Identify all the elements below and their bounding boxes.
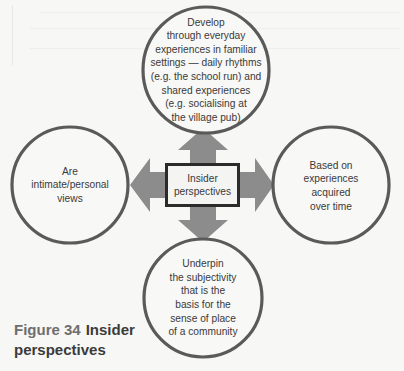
- node-top-line: shared experiences: [151, 84, 262, 98]
- node-right-line: acquired: [304, 186, 359, 200]
- node-top-line: settings — daily rhythms: [151, 56, 262, 70]
- node-right-line: over time: [304, 200, 359, 214]
- node-top: Develop through everyday experiences in …: [146, 12, 266, 128]
- node-top-line: through everyday: [151, 29, 262, 43]
- node-bottom-line: basis for the: [168, 298, 237, 312]
- node-top-line: the village pub): [151, 111, 262, 125]
- figure-title-line2: perspectives: [14, 340, 135, 360]
- arrow-right-icon: [240, 158, 274, 212]
- node-top-line: experiences in familiar: [151, 43, 262, 57]
- node-right-line: experiences: [304, 172, 359, 186]
- node-right: Based on experiences acquired over time: [276, 130, 386, 242]
- center-label: Insider perspectives: [173, 172, 233, 198]
- node-left-line: intimate/personal: [31, 178, 109, 192]
- node-bottom-line: sense of place: [168, 312, 237, 326]
- node-top-line: (e.g. the school run) and: [151, 70, 262, 84]
- arrow-down-icon: [178, 207, 228, 242]
- node-left-line: views: [31, 192, 109, 206]
- node-top-line: Develop: [151, 16, 262, 30]
- node-bottom-line: Underpin: [168, 257, 237, 271]
- center-box: Insider perspectives: [165, 163, 240, 207]
- node-left: Are intimate/personal views: [15, 130, 125, 240]
- figure-number: Figure 34: [14, 321, 81, 338]
- figure-title-line1: Insider: [86, 321, 135, 338]
- node-bottom-line: that is the: [168, 284, 237, 298]
- node-top-line: (e.g. socialising at: [151, 97, 262, 111]
- node-left-line: Are: [31, 165, 109, 179]
- node-right-line: Based on: [304, 159, 359, 173]
- figure-caption: Figure 34Insider perspectives: [14, 320, 135, 360]
- node-bottom-line: of a community: [168, 325, 237, 339]
- arrow-left-icon: [130, 158, 165, 212]
- node-bottom-line: the subjectivity: [168, 271, 237, 285]
- node-bottom: Underpin the subjectivity that is the ba…: [148, 243, 258, 353]
